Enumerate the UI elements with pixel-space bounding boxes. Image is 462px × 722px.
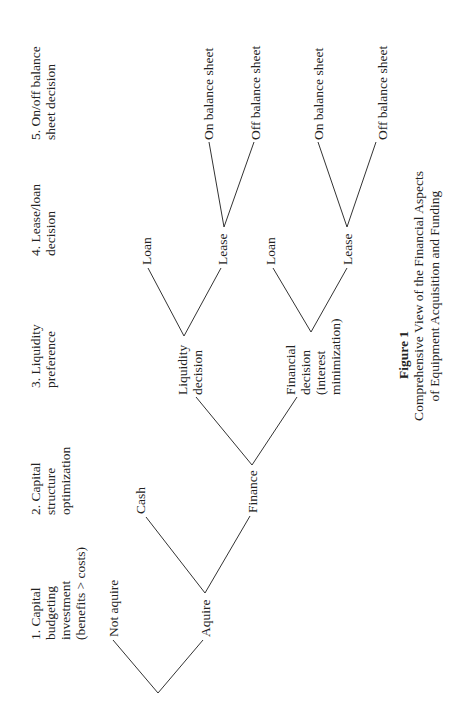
caption-line-2: of Equipment Acquisition and Funding <box>427 190 442 401</box>
node-finance: Finance <box>245 470 260 513</box>
header-line: sheet decision <box>43 64 58 140</box>
edge-root-aquire <box>158 640 203 693</box>
edge-lease2-on <box>318 142 347 227</box>
node-lease-1: Lease <box>215 234 230 265</box>
edge-lease2-off <box>347 142 376 227</box>
edge-liquidity-loan <box>148 268 184 336</box>
node-loan-1: Loan <box>139 237 154 265</box>
header-line: (benefits > costs) <box>73 547 88 640</box>
node-financial-decision: Financial decision (interest minimizatio… <box>283 319 343 396</box>
edge-lease1-off <box>224 142 254 227</box>
node-on-balance-1: On balance sheet <box>201 48 216 140</box>
header-line: decision <box>43 211 58 256</box>
header-line: 1. Capital <box>28 587 43 640</box>
header-line: 2. Capital <box>28 462 43 515</box>
node-lease-2: Lease <box>340 234 355 265</box>
edge-liquidity-lease <box>184 268 221 336</box>
edge-aquire-cash <box>146 517 205 593</box>
edge-root-not-aquire <box>113 640 158 693</box>
node-cash: Cash <box>133 487 148 514</box>
stage-header-2: 2. Capital structure optimization <box>28 447 73 515</box>
node-loan-2: Loan <box>263 237 278 265</box>
node-line: Financial <box>283 345 298 395</box>
edge-financial-loan <box>273 268 311 332</box>
header-line: optimization <box>58 447 73 515</box>
edge-finance-financial <box>252 397 297 465</box>
node-liquidity-decision: Liquidity decision <box>175 345 205 395</box>
node-line: (interest <box>313 351 328 395</box>
node-line: decision <box>298 350 313 395</box>
edge-lease1-on <box>209 142 224 227</box>
figure-caption: Figure 1 Comprehensive View of the Finan… <box>396 171 442 421</box>
stage-header-4: 4. Lease/loan decision <box>28 184 58 256</box>
header-line: 3. Liquidity <box>28 324 43 388</box>
tree-edges <box>113 142 376 693</box>
header-line: 4. Lease/loan <box>28 184 43 256</box>
header-line: preference <box>43 331 58 388</box>
stage-header-1: 1. Capital budgeting investment (benefit… <box>28 547 88 640</box>
node-line: Liquidity <box>175 345 190 395</box>
node-aquire: Aquire <box>198 600 213 638</box>
figure-canvas: 1. Capital budgeting investment (benefit… <box>0 0 462 722</box>
node-off-balance-1: Off balance sheet <box>248 46 263 140</box>
figure-label: Figure 1 <box>396 331 411 379</box>
node-on-balance-2: On balance sheet <box>311 48 326 140</box>
node-line: minimization) <box>328 319 343 396</box>
edge-finance-liquidity <box>196 397 252 465</box>
decision-tree-diagram: 1. Capital budgeting investment (benefit… <box>0 0 462 722</box>
header-line: investment <box>58 581 73 640</box>
header-line: budgeting <box>43 586 58 640</box>
stage-header-5: 5. On/off balance sheet decision <box>28 46 58 140</box>
node-off-balance-2: Off balance sheet <box>375 46 390 140</box>
node-line: decision <box>190 350 205 395</box>
header-line: 5. On/off balance <box>28 46 43 140</box>
stage-header-3: 3. Liquidity preference <box>28 324 58 388</box>
node-not-aquire: Not aquire <box>106 580 121 637</box>
edge-aquire-finance <box>205 516 250 593</box>
header-line: structure <box>43 468 58 515</box>
caption-line-1: Comprehensive View of the Financial Aspe… <box>411 171 426 421</box>
